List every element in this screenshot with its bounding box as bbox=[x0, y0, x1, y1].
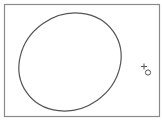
canvas-frame bbox=[5, 5, 160, 117]
drawing-canvas[interactable] bbox=[0, 0, 163, 126]
